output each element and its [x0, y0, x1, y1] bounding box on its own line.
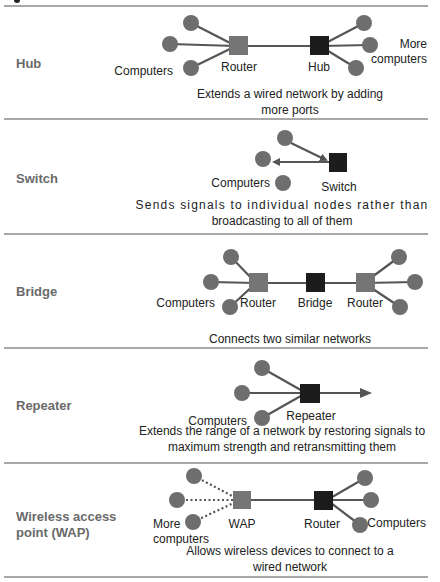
label-computers: Computers [367, 516, 426, 530]
router-icon [249, 273, 268, 292]
caption-line: Connects two similar networks [150, 331, 430, 347]
label-switch: Switch [321, 180, 356, 194]
computer-icon [407, 274, 423, 290]
caption-line: wired network [150, 559, 430, 575]
label-computers: Computers [156, 296, 215, 310]
router-icon [356, 273, 375, 292]
label-router: Router [304, 517, 340, 531]
wap-icon [233, 491, 251, 509]
computer-icon [348, 60, 364, 76]
computer-icon [352, 517, 368, 533]
bridge-diagram: Computers Router Bridge Router [0, 233, 440, 347]
label-router-2: Router [347, 296, 383, 310]
computer-icon [203, 274, 219, 290]
label-bridge: Bridge [298, 296, 333, 310]
computer-icon [183, 60, 199, 76]
router-icon [314, 491, 333, 510]
computer-icon [392, 299, 408, 315]
label-computers-more: computers [371, 52, 427, 66]
computer-icon [183, 15, 199, 31]
hub-icon [310, 36, 329, 55]
caption-line: more ports [150, 102, 430, 118]
repeater-icon [300, 384, 320, 403]
switch-icon [329, 153, 347, 172]
computer-icon [169, 492, 185, 508]
computer-icon [275, 175, 291, 191]
caption-repeater: Extends the range of a network by restor… [132, 423, 432, 455]
caption-line: broadcasting to all of them [132, 213, 432, 229]
divider [4, 576, 428, 578]
label-router-1: Router [240, 296, 276, 310]
caption-line: Extends the range of a network by restor… [132, 423, 432, 439]
computer-icon [357, 470, 373, 486]
label-router: Router [221, 60, 257, 74]
caption-bridge: Connects two similar networks [150, 331, 430, 347]
computer-icon [362, 37, 378, 53]
label-wap: WAP [229, 517, 256, 531]
caption-switch: Sends signals to individual nodes rather… [132, 197, 432, 229]
wireless-links [177, 476, 240, 522]
computer-icon [162, 36, 178, 52]
caption-line: Allows wireless devices to connect to a [150, 543, 430, 559]
caption-line: maximum strength and retransmitting them [132, 439, 432, 455]
computer-icon [223, 249, 239, 265]
computer-icon [277, 130, 293, 146]
label-hub: Hub [308, 60, 330, 74]
caption-hub: Extends a wired network by adding more p… [150, 86, 430, 118]
computer-icon [234, 385, 250, 401]
caption-line: Extends a wired network by adding [150, 86, 430, 102]
label-repeater: Repeater [286, 409, 335, 423]
computer-icon [255, 151, 271, 167]
computer-icon [185, 514, 201, 530]
bridge-icon [306, 273, 325, 292]
computer-icon [222, 299, 238, 315]
caption-wap: Allows wireless devices to connect to a … [150, 543, 430, 575]
label-more: More [153, 517, 181, 531]
label-computers: Computers [114, 64, 173, 78]
computer-icon [363, 492, 379, 508]
label-more: More [400, 37, 428, 51]
router-icon [229, 36, 248, 55]
label-computers: Computers [211, 176, 270, 190]
computer-icon [254, 360, 270, 376]
computer-icon [356, 15, 372, 31]
computer-icon [186, 468, 202, 484]
computer-icon [391, 249, 407, 265]
caption-line: Sends signals to individual nodes rather… [132, 197, 432, 213]
